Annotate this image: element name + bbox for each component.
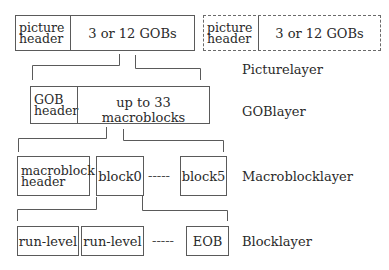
gobs-content-cell-next: 3 or 12 GOBs	[258, 16, 380, 50]
picture-box-next: pictureheader 3 or 12 GOBs	[203, 15, 381, 51]
goblayer-label: GOBlayer	[242, 104, 306, 119]
macroblock-ellipsis: -----	[148, 168, 170, 183]
gob-header-line2: header	[34, 103, 78, 118]
macroblock-header-line2: header	[21, 174, 65, 189]
gobs-content-text: 3 or 12 GOBs	[88, 26, 177, 41]
run-level-text-1: run-level	[19, 234, 77, 249]
block0-box: block0	[96, 156, 144, 196]
gobs-content-cell: 3 or 12 GOBs	[70, 16, 194, 50]
picture-header-line2: header	[19, 31, 63, 46]
block0-cell: block0	[97, 157, 143, 195]
eob-text: EOB	[193, 234, 223, 249]
run-level-box-1: run-level	[17, 226, 79, 256]
eob-box: EOB	[186, 226, 229, 256]
macroblocks-content-text: up to 33 macroblocks	[78, 95, 209, 125]
gobs-content-text-next: 3 or 12 GOBs	[275, 26, 364, 41]
gob-header-cell: GOBheader	[31, 87, 77, 123]
macroblocklayer-label: Macroblocklayer	[242, 169, 353, 184]
picture-header-line2-next: header	[207, 31, 251, 46]
block0-text: block0	[98, 169, 142, 184]
run-level-text-2: run-level	[83, 234, 141, 249]
gob-box: GOBheader up to 33 macroblocks	[30, 86, 210, 124]
run-level-box-2: run-level	[81, 226, 144, 256]
block5-text: block5	[182, 169, 226, 184]
macroblock-header-box: macroblockheader	[17, 156, 90, 196]
block5-box: block5	[180, 156, 227, 196]
eob-cell: EOB	[187, 227, 228, 255]
picturelayer-label: Picturelayer	[242, 62, 323, 77]
block-ellipsis: -----	[152, 233, 174, 248]
run-level-cell-2: run-level	[82, 227, 143, 255]
macroblocks-content-cell: up to 33 macroblocks	[77, 87, 209, 123]
picture-box: pictureheader 3 or 12 GOBs	[15, 15, 195, 51]
picture-header-cell-next: pictureheader	[204, 16, 258, 50]
picture-header-cell: pictureheader	[16, 16, 70, 50]
block5-cell: block5	[181, 157, 226, 195]
run-level-cell-1: run-level	[18, 227, 78, 255]
blocklayer-label: Blocklayer	[242, 234, 312, 249]
macroblock-header-cell: macroblockheader	[18, 157, 89, 195]
